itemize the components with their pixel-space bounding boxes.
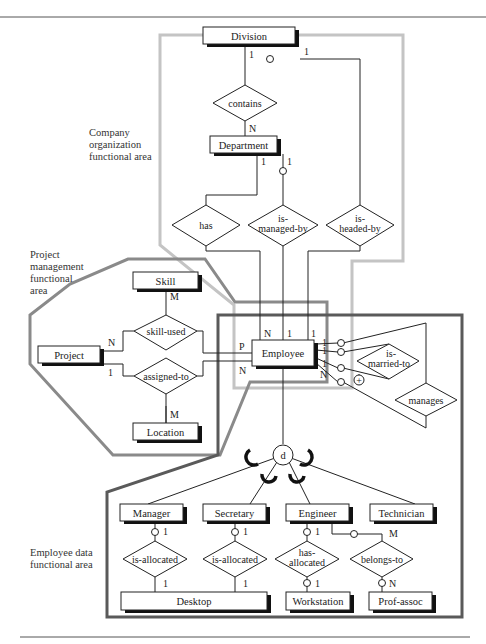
- svg-text:M: M: [170, 291, 179, 302]
- relationship-is-headed-by[interactable]: is- headed-by: [326, 205, 394, 246]
- entity-technician[interactable]: Technician: [370, 504, 437, 524]
- svg-text:1: 1: [108, 367, 113, 378]
- has-label: has: [199, 220, 212, 231]
- entity-manager[interactable]: Manager: [120, 504, 187, 524]
- division-label: Division: [231, 31, 268, 42]
- relationship-secretary-is-allocated[interactable]: is-allocated: [203, 541, 267, 577]
- svg-text:M: M: [389, 528, 398, 539]
- er-diagram: Division Department Skill Project Locati…: [0, 0, 486, 644]
- relationship-has-allocated[interactable]: has- allocated: [275, 541, 339, 577]
- svg-text:P: P: [239, 341, 245, 352]
- svg-text:1: 1: [243, 526, 248, 537]
- secretary-is-allocated-label: is-allocated: [212, 554, 258, 565]
- svg-text:functional: functional: [30, 273, 73, 284]
- entity-desktop[interactable]: Desktop: [121, 592, 271, 613]
- optional-circle-icon: [338, 349, 345, 356]
- relationship-is-managed-by[interactable]: is- managed-by: [248, 205, 318, 246]
- is-managed-by-label-2: managed-by: [258, 223, 307, 234]
- manager-label: Manager: [133, 508, 171, 519]
- location-label: Location: [147, 427, 185, 438]
- has-allocated-label-2: allocated: [289, 557, 325, 568]
- relationship-contains[interactable]: contains: [213, 85, 277, 121]
- svg-text:1: 1: [287, 156, 292, 167]
- optional-circle-icon: [338, 340, 345, 347]
- technician-label: Technician: [379, 508, 426, 519]
- svg-text:organization: organization: [89, 139, 142, 150]
- svg-text:1: 1: [261, 156, 266, 167]
- svg-text:management: management: [30, 261, 84, 272]
- svg-text:N: N: [239, 365, 246, 376]
- svg-text:N: N: [389, 578, 396, 589]
- svg-text:1: 1: [315, 578, 320, 589]
- svg-text:1: 1: [163, 526, 168, 537]
- is-married-to-label-2: married-to: [368, 358, 410, 369]
- svg-text:area: area: [30, 285, 48, 296]
- entity-division[interactable]: Division: [203, 27, 299, 47]
- svg-text:+: +: [356, 375, 362, 386]
- svg-text:Project: Project: [30, 249, 60, 260]
- optional-circle-icon: [351, 531, 358, 538]
- svg-text:1: 1: [315, 526, 320, 537]
- svg-text:functional area: functional area: [30, 559, 93, 570]
- project-label: Project: [54, 350, 84, 361]
- svg-text:N: N: [249, 123, 256, 134]
- subset-arc-icon: [246, 450, 258, 465]
- entity-engineer[interactable]: Engineer: [286, 504, 353, 524]
- relationship-manager-is-allocated[interactable]: is-allocated: [123, 541, 187, 577]
- entity-employee[interactable]: Employee: [252, 340, 318, 369]
- prof-assoc-label: Prof-assoc: [378, 596, 423, 607]
- svg-text:1: 1: [249, 49, 254, 60]
- svg-text:functional area: functional area: [89, 151, 152, 162]
- svg-text:N: N: [264, 328, 271, 339]
- entity-workstation[interactable]: Workstation: [286, 592, 354, 613]
- optional-circle-icon: [232, 529, 239, 536]
- manager-is-allocated-label: is-allocated: [132, 554, 178, 565]
- optional-circle-icon: [304, 580, 311, 587]
- relationship-manages[interactable]: manages: [395, 383, 457, 416]
- svg-text:Employee data: Employee data: [30, 547, 93, 558]
- relationship-assigned-to[interactable]: assigned-to: [134, 358, 197, 394]
- engineer-label: Engineer: [299, 508, 337, 519]
- assigned-to-label: assigned-to: [143, 371, 189, 382]
- relationship-has[interactable]: has: [172, 205, 240, 246]
- optional-circle-icon: [379, 580, 386, 587]
- skill-used-label: skill-used: [147, 326, 186, 337]
- entity-secretary[interactable]: Secretary: [203, 504, 270, 524]
- svg-text:1: 1: [287, 328, 292, 339]
- project-management-area-label: Project management functional area: [30, 249, 84, 296]
- svg-text:N: N: [320, 369, 327, 380]
- optional-circle-icon: [338, 365, 345, 372]
- relationship-skill-used[interactable]: skill-used: [134, 315, 197, 350]
- entity-project[interactable]: Project: [38, 346, 104, 366]
- svg-text:1: 1: [311, 328, 316, 339]
- desktop-label: Desktop: [177, 596, 212, 607]
- relationship-belongs-to[interactable]: belongs-to: [350, 541, 413, 577]
- optional-circle-icon: [267, 56, 274, 63]
- optional-circle-icon: [338, 379, 345, 386]
- exclusive-plus-icon: +: [354, 375, 364, 386]
- employee-label: Employee: [262, 348, 305, 359]
- entity-department[interactable]: Department: [210, 136, 281, 156]
- optional-circle-icon: [280, 168, 287, 175]
- department-label: Department: [219, 140, 269, 151]
- disjoint-label: d: [280, 450, 286, 461]
- entity-prof-assoc[interactable]: Prof-assoc: [369, 592, 436, 613]
- entity-skill[interactable]: Skill: [133, 272, 202, 292]
- employee-data-area-label: Employee data functional area: [30, 547, 93, 570]
- svg-text:M: M: [170, 409, 179, 420]
- workstation-label: Workstation: [292, 596, 344, 607]
- is-headed-by-label-2: headed-by: [339, 223, 381, 234]
- manages-label: manages: [409, 395, 444, 406]
- secretary-label: Secretary: [215, 508, 255, 519]
- svg-text:N: N: [108, 337, 115, 348]
- optional-circle-icon: [304, 529, 311, 536]
- company-organization-area-label: Company organization functional area: [89, 127, 152, 162]
- belongs-to-label: belongs-to: [361, 554, 403, 565]
- specialization-disjoint[interactable]: d: [273, 445, 293, 465]
- svg-text:1: 1: [304, 46, 309, 57]
- optional-circle-icon: [152, 529, 159, 536]
- entity-location[interactable]: Location: [133, 423, 202, 443]
- subset-arc-icon: [300, 450, 312, 465]
- svg-text:1: 1: [163, 578, 168, 589]
- svg-text:1: 1: [322, 358, 327, 369]
